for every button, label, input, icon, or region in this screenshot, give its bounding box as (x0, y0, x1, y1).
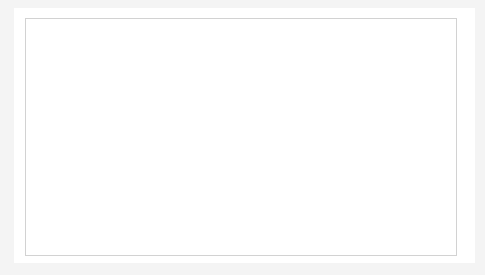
pie-chart-figure (0, 0, 485, 275)
page-edge-shade-bottom (0, 263, 485, 275)
legend-swatch-partly-free-icon (371, 156, 379, 164)
legend-swatch-not-free-icon (371, 179, 379, 187)
page-edge-shade-top (0, 0, 485, 8)
page-edge-shade-left (0, 0, 14, 275)
legend-swatch-free-icon (371, 133, 379, 141)
chart-legend (371, 126, 466, 195)
legend-item-not-free[interactable] (371, 172, 466, 194)
legend-item-partly-free[interactable] (371, 149, 466, 171)
page-edge-shade-right (475, 0, 485, 275)
legend-item-free[interactable] (371, 126, 466, 148)
